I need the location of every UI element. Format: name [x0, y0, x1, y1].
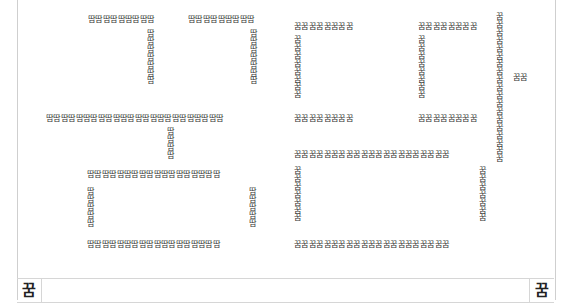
a-horizontal-bar: 땀땀땀땀땀땀땀땀땀땀땀땀땀땀땀땀땀땀땀땀땀땀땀땀	[46, 114, 224, 123]
u-side: 꿈꿈	[513, 73, 528, 82]
mieum-right: 땀땀땀땀땀	[249, 188, 259, 228]
ssang-digeut-top-right: 땀땀땀땀땀땀땀땀땀	[188, 15, 255, 24]
ssang-digeut-vertical-left: 땀땀땀땀땀땀땀	[147, 30, 157, 85]
a-stem: 땀땀땀땀	[167, 128, 177, 160]
ssang-giyeok-1-top: 꿈꿈꿈꿈꿈꿈꿈꿈	[294, 22, 353, 31]
document-page	[17, 0, 556, 300]
ssang-digeut-top-left: 땀땀땀땀땀땀땀땀땀	[88, 15, 155, 24]
footer-cell-right[interactable]: 꿈	[529, 279, 554, 302]
mieum-right-right: 꿈꿈꿈꿈꿈꿈꿈	[479, 167, 489, 222]
ssang-giyeok-2-top: 꿈꿈꿈꿈꿈꿈꿈꿈	[418, 22, 477, 31]
mieum-top: 땀땀땀땀땀땀땀땀땀땀땀땀땀땀땀땀땀땀	[87, 170, 220, 179]
mieum-bottom: 땀땀땀땀땀땀땀땀땀땀땀땀땀땀땀땀땀땀	[87, 240, 220, 249]
ssang-giyeok-1-left: 꿈꿈꿈꿈꿈꿈꿈꿈	[294, 36, 304, 99]
mieum-top-right: 꿈꿈꿈꿈꿈꿈꿈꿈꿈꿈꿈꿈꿈꿈꿈꿈꿈꿈꿈꿈꿈	[294, 150, 449, 159]
ssang-giyeok-2-bottom: 꿈꿈꿈꿈꿈꿈꿈꿈	[418, 114, 477, 123]
ssang-giyeok-1-bottom: 꿈꿈꿈꿈꿈꿈꿈꿈	[294, 114, 353, 123]
u-vertical: 꿈꿈꿈꿈꿈꿈꿈꿈꿈꿈꿈꿈꿈꿈꿈꿈꿈꿈꿈	[496, 13, 506, 163]
ssang-digeut-vertical-right: 땀땀땀땀땀땀땀	[250, 30, 260, 85]
mieum-left-right: 꿈꿈꿈꿈꿈꿈꿈	[294, 167, 304, 222]
mieum-left: 땀땀땀땀땀	[87, 188, 97, 228]
mieum-bottom-right: 꿈꿈꿈꿈꿈꿈꿈꿈꿈꿈꿈꿈꿈꿈꿈꿈꿈꿈꿈꿈꿈	[294, 240, 449, 249]
footer-row: 꿈 꿈	[17, 278, 554, 303]
footer-cell-left[interactable]: 꿈	[17, 279, 42, 302]
ssang-giyeok-2-left: 꿈꿈꿈꿈꿈꿈꿈꿈	[418, 36, 428, 99]
